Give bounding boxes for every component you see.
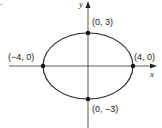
y-axis-arrow-icon (86, 1, 91, 8)
y-axis-label: y (78, 0, 83, 9)
point-left (41, 64, 45, 68)
point-bottom (86, 97, 90, 101)
label-right: (4, 0) (134, 52, 155, 62)
label-top: (0, 3) (92, 17, 113, 27)
point-top (86, 31, 90, 35)
label-left: (−4, 0) (8, 52, 34, 62)
point-right (131, 64, 135, 68)
label-bottom: (0, −3) (92, 104, 118, 114)
figure-marker: . (0, 0, 3, 7)
ellipse-diagram: . x y (0, 3) (−4, 0) (4, 0) (0, −3) (0, 0, 162, 128)
x-axis-arrow-icon (150, 64, 157, 69)
x-axis-label: x (149, 69, 154, 79)
